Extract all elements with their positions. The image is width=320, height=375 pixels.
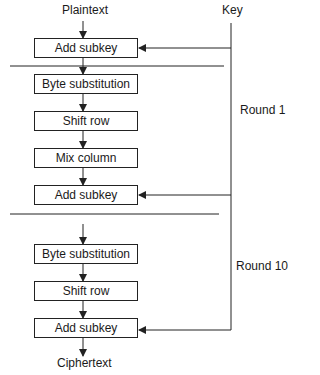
key-label: Key [222, 3, 243, 17]
step-shift-row-r1: Shift row [34, 111, 138, 131]
ciphertext-label: Ciphertext [57, 356, 112, 370]
round10-label: Round 10 [236, 259, 288, 273]
step-add-subkey-r1: Add subkey [34, 185, 138, 205]
plaintext-label: Plaintext [62, 3, 108, 17]
step-add-subkey-r10: Add subkey [34, 318, 138, 338]
step-shift-row-r10: Shift row [34, 281, 138, 301]
round1-label: Round 1 [240, 103, 285, 117]
step-byte-substitution-r1: Byte substitution [34, 74, 138, 94]
step-add-subkey-initial: Add subkey [34, 38, 138, 58]
step-byte-substitution-r10: Byte substitution [34, 244, 138, 264]
step-mix-column-r1: Mix column [34, 148, 138, 168]
